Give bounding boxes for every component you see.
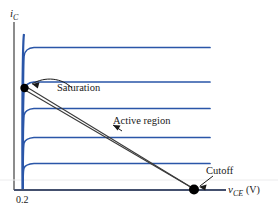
x-axis-label-subscript: CE <box>233 189 243 198</box>
active-region-annotation-label: Active region <box>113 116 170 127</box>
collector-curve-2 <box>23 82 210 188</box>
x-axis-tick-label-knee: 0.2 <box>16 195 29 205</box>
transistor-characteristics-figure: iC vCE (V) 0.2 Saturation Active region … <box>0 0 278 215</box>
saturation-annotation-label: Saturation <box>57 83 100 94</box>
cutoff-point-marker <box>189 185 199 195</box>
x-axis-label-unit: (V) <box>246 184 260 195</box>
x-axis-label: vCE (V) <box>228 184 260 198</box>
load-line-lower <box>25 90 194 189</box>
plot-canvas <box>0 0 278 215</box>
y-axis-label: iC <box>10 8 18 22</box>
collector-curve-5 <box>23 164 210 189</box>
cutoff-annotation-label: Cutoff <box>206 166 233 177</box>
y-axis-label-subscript: C <box>13 13 18 22</box>
saturation-point-marker <box>20 84 28 92</box>
